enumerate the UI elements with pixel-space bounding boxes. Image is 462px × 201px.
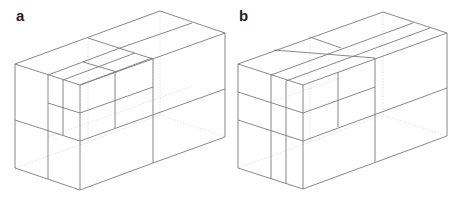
visible-edge [238,12,383,64]
visible-edge [286,28,430,81]
visible-edge [383,12,447,33]
visible-edge [310,37,341,48]
visible-edge [80,89,225,141]
visible-edge [48,48,120,75]
hidden-edge [15,142,88,168]
hidden-edge [310,115,383,142]
visible-edge [15,64,80,85]
hidden-edge [160,115,225,137]
box-diagrams [0,0,462,201]
visible-edge [153,137,225,163]
visible-edge [48,103,80,113]
visible-edge [238,120,303,141]
visible-edge [15,168,80,190]
hidden-edge [120,86,192,112]
visible-edge [303,87,375,113]
visible-edge [88,38,153,59]
hidden-edge [88,115,160,142]
visible-edge [80,163,153,190]
hidden-edge [48,112,120,137]
panel-a-box [15,11,225,190]
visible-edge [238,168,303,189]
visible-edge [238,92,303,113]
visible-edge [15,11,160,64]
panel-b-box [238,12,447,189]
figure: a b [0,0,462,201]
hidden-edge [238,142,310,168]
visible-edge [160,11,225,33]
visible-edge [80,87,153,113]
visible-edge [271,23,413,75]
visible-edge [15,120,80,141]
visible-edge [120,23,192,48]
hidden-edge [383,115,447,136]
hidden-edge [271,77,343,102]
